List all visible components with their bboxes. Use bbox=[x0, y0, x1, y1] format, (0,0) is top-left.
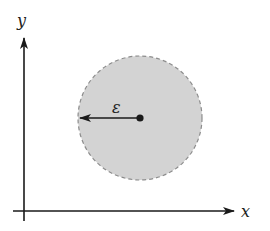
y-axis-label: y bbox=[16, 11, 27, 30]
epsilon-neighborhood-diagram: ε y x bbox=[0, 0, 270, 231]
x-axis-label: x bbox=[241, 202, 250, 221]
epsilon-label: ε bbox=[112, 98, 121, 117]
center-point bbox=[136, 114, 143, 121]
